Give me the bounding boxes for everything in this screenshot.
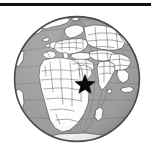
globe-map[interactable]	[0, 0, 153, 153]
globe-container	[0, 0, 153, 153]
globe-locator-figure	[0, 0, 153, 153]
